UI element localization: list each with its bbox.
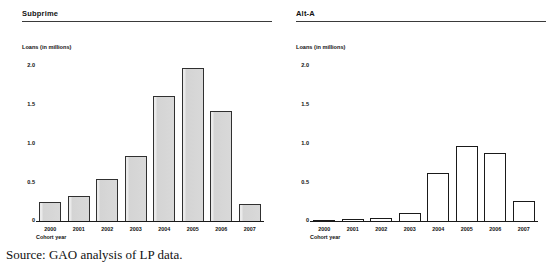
x-tick-label: 2004 [150,226,179,232]
x-tick-label: 2000 [310,226,339,232]
bar-slot [93,60,122,222]
plot-area-alt-a: 2.0 1.5 1.0 0.5 0 [310,60,538,222]
panel-title-subprime: Subprime [22,9,58,18]
y-tick-label: 2.0 [22,63,35,69]
y-tick-label: 1.0 [22,141,35,147]
bar-slot [150,60,179,222]
x-tick-label: 2005 [453,226,482,232]
y-tick-label: 1.0 [296,141,309,147]
y-axis-title-subprime: Loans (in millions) [22,44,71,50]
x-tick-labels-alt-a: 2000 2001 2002 2003 2004 2005 2006 2007 [310,222,538,234]
x-tick-label: 2004 [424,226,453,232]
bar-alt-a-2006 [484,153,506,222]
bar-alt-a-2004 [427,173,449,222]
x-tick-label: 2007 [510,226,539,232]
x-tick-label: 2006 [207,226,236,232]
bar-slot [179,60,208,222]
bar-slot [207,60,236,222]
y-tick-label: 0.5 [22,180,35,186]
x-axis-title-subprime: Cohort year [36,234,66,240]
plot-area-subprime: 2.0 1.5 1.0 0.5 0 [36,60,264,222]
x-tick-label: 2001 [65,226,94,232]
bar-slot [339,60,368,222]
x-tick-labels-subprime: 2000 2001 2002 2003 2004 2005 2006 2007 [36,222,264,234]
bar-slot [424,60,453,222]
x-tick-label: 2003 [396,226,425,232]
bar-subprime-2001 [68,196,90,222]
x-tick-label: 2002 [93,226,122,232]
x-tick-label: 2007 [236,226,265,232]
panel-alt-a: Alt-A Loans (in millions) 2.0 1.5 1.0 0.… [296,0,546,240]
gao-loan-cohort-figure: Subprime Loans (in millions) 2.0 1.5 1.0… [0,0,548,272]
y-tick-label: 0 [22,218,35,224]
panel-title-alt-a: Alt-A [296,9,315,18]
bar-subprime-2007 [239,204,261,222]
bar-alt-a-2005 [456,146,478,222]
y-tick-label: 1.5 [296,102,309,108]
panel-rule [22,21,272,22]
bar-subprime-2004 [153,96,175,222]
panel-subprime: Subprime Loans (in millions) 2.0 1.5 1.0… [22,0,272,240]
x-tick-label: 2003 [122,226,151,232]
bar-subprime-2006 [210,111,232,222]
y-tick-label: 2.0 [296,63,309,69]
x-tick-label: 2006 [481,226,510,232]
y-tick-label: 0 [296,218,309,224]
bar-slot [396,60,425,222]
bar-slot [510,60,539,222]
bar-subprime-2003 [125,156,147,222]
bar-slot [236,60,265,222]
x-axis-title-alt-a: Cohort year [310,234,340,240]
bar-slot [453,60,482,222]
x-tick-label: 2002 [367,226,396,232]
source-note: Source: GAO analysis of LP data. [6,247,182,263]
bar-subprime-2000 [39,202,61,222]
bar-slot [481,60,510,222]
x-tick-label: 2001 [339,226,368,232]
bar-series-subprime [36,60,264,222]
bar-subprime-2005 [182,68,204,222]
x-tick-label: 2005 [179,226,208,232]
bar-subprime-2002 [96,179,118,222]
bar-alt-a-2007 [513,201,535,222]
bar-slot [65,60,94,222]
x-tick-label: 2000 [36,226,65,232]
bar-slot [367,60,396,222]
bar-slot [310,60,339,222]
panel-rule [296,21,546,22]
bar-slot [36,60,65,222]
y-tick-label: 0.5 [296,180,309,186]
y-tick-label: 1.5 [22,102,35,108]
y-axis-title-alt-a: Loans (in millions) [296,44,345,50]
bar-series-alt-a [310,60,538,222]
bar-slot [122,60,151,222]
